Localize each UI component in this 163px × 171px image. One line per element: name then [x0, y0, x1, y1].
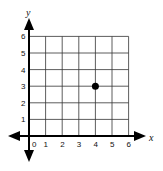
y-tick-label: 1 — [21, 115, 26, 124]
data-point — [92, 83, 99, 90]
x-tick-label: 1 — [44, 140, 49, 149]
axes — [14, 28, 140, 152]
x-tick-label: 3 — [77, 140, 82, 149]
x-tick-label: 0 — [32, 140, 37, 149]
x-tick-label: 6 — [127, 140, 132, 149]
y-axis-down-arrow-icon — [24, 150, 34, 162]
y-axis-up-arrow-icon — [24, 18, 34, 30]
y-tick-label: 4 — [21, 66, 26, 75]
x-tick-label: 5 — [110, 140, 115, 149]
data-points — [92, 83, 99, 90]
x-tick-label: 2 — [60, 140, 65, 149]
y-tick-label: 2 — [21, 99, 26, 108]
y-tick-labels: 123456 — [21, 32, 26, 124]
y-tick-label: 5 — [21, 49, 26, 58]
y-tick-label: 3 — [21, 82, 26, 91]
x-axis-right-arrow-icon — [134, 131, 146, 141]
x-axis-left-arrow-icon — [8, 131, 20, 141]
x-tick-labels: 0123456 — [32, 140, 132, 149]
y-tick-label: 6 — [21, 32, 26, 41]
x-axis-label: x — [148, 132, 154, 143]
coordinate-plane: x y 0123456 123456 — [0, 0, 163, 171]
grid — [29, 36, 129, 136]
x-tick-label: 4 — [93, 140, 98, 149]
y-axis-label: y — [25, 7, 31, 18]
